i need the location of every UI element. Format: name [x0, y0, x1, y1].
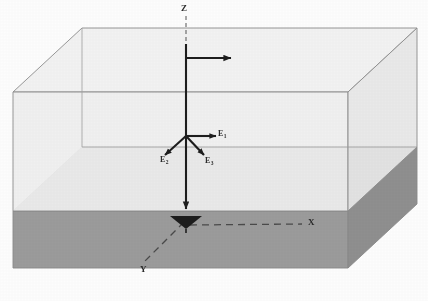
- vector-e3-label: E3: [205, 157, 213, 165]
- diagram-svg: [0, 0, 428, 301]
- vector-e1-subscript: 1: [224, 133, 227, 139]
- vector-e1-letter: E: [218, 129, 223, 138]
- vector-e2-letter: E: [160, 155, 165, 164]
- z-axis-label: Z: [181, 4, 187, 13]
- vector-e2-label: E2: [160, 156, 168, 164]
- x-axis-label: X: [308, 218, 315, 227]
- water-column: [13, 28, 417, 211]
- figure-canvas: Image segment: [0, 0, 428, 301]
- water-front-face: [13, 92, 348, 211]
- water-top-face: [13, 28, 417, 92]
- vector-e2-subscript: 2: [166, 159, 169, 165]
- y-axis-label: Y: [140, 265, 147, 274]
- vector-e3-letter: E: [205, 156, 210, 165]
- vector-e3-subscript: 3: [211, 160, 214, 166]
- vector-e1-label: E1: [218, 130, 226, 138]
